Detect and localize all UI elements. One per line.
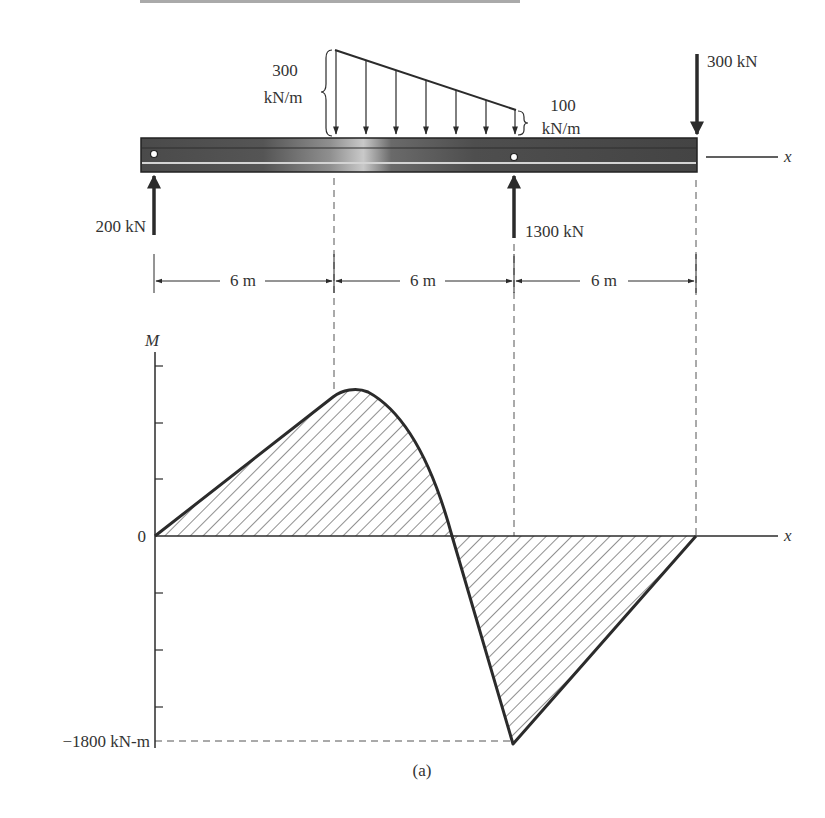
x-axis-label: x	[783, 526, 792, 545]
reaction-middle-label: 1300 kN	[525, 222, 584, 241]
cropped-header-text	[140, 0, 520, 3]
brace-left-icon	[321, 50, 332, 136]
dimension-3: 6 m	[591, 271, 617, 290]
dimension-1: 6 m	[230, 271, 256, 290]
pin-left-icon	[151, 151, 158, 158]
beam-diagram-figure: 300 kN/m 100 kN/m 300 kN x 200 kN 1300 k…	[0, 0, 825, 818]
load-left-value: 300	[272, 61, 298, 80]
negative-moment-area	[452, 536, 696, 744]
load-arrows	[336, 50, 515, 134]
figure-caption: (a)	[413, 761, 432, 780]
reaction-middle: 1300 kN	[514, 176, 584, 241]
m-axis-label: M	[144, 331, 160, 350]
zero-label: 0	[138, 527, 147, 546]
reaction-left-label: 200 kN	[95, 217, 146, 236]
brace-right-icon	[518, 111, 528, 135]
point-load-label: 300 kN	[707, 52, 758, 71]
min-moment-label: −1800 kN-m	[63, 732, 151, 751]
positive-moment-area	[155, 390, 452, 536]
beam	[141, 138, 697, 172]
dimension-2: 6 m	[410, 271, 436, 290]
beam-x-axis: x	[706, 147, 792, 166]
reaction-left: 200 kN	[95, 176, 154, 236]
distributed-load: 300 kN/m 100 kN/m	[264, 50, 581, 138]
load-right-unit: kN/m	[542, 119, 581, 138]
moment-diagram: M x 0 −1800 kN-m	[63, 331, 793, 751]
load-left-unit: kN/m	[264, 88, 303, 107]
point-load-right: 300 kN	[697, 52, 758, 134]
beam-x-label: x	[783, 147, 792, 166]
pin-middle-icon	[511, 154, 518, 161]
load-right-value: 100	[550, 96, 576, 115]
